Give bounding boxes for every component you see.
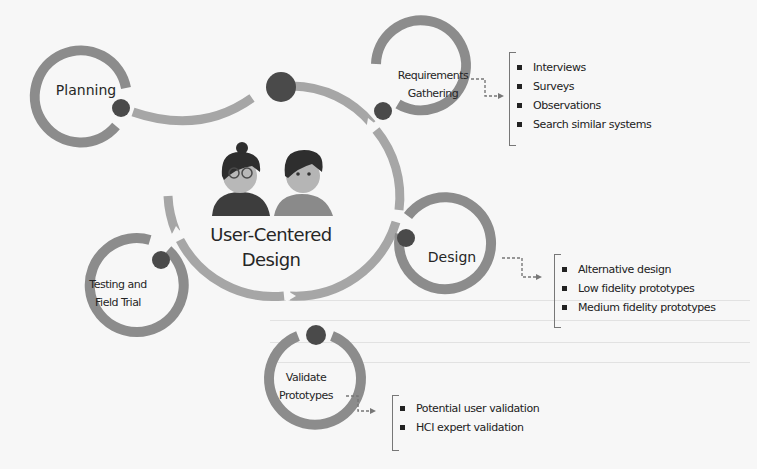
requirements-details-list: Interviews Surveys Observations Search s… bbox=[515, 58, 651, 134]
stage-label-testing-line2: Field Trial bbox=[95, 296, 141, 309]
detail-item: HCI expert validation bbox=[398, 418, 539, 437]
node-requirements bbox=[374, 102, 392, 120]
detail-item: Alternative design bbox=[560, 260, 716, 279]
center-label-line2: Design bbox=[242, 249, 301, 270]
stage-label-testing-line1: Testing and bbox=[88, 278, 146, 291]
stage-label-design: Design bbox=[428, 249, 476, 265]
detail-item: Search similar systems bbox=[515, 115, 651, 134]
stage-label-requirements-line1: Requirements bbox=[398, 69, 469, 82]
stage-label-validate-line2: Prototypes bbox=[279, 389, 334, 402]
design-details-list: Alternative design Low fidelity prototyp… bbox=[560, 260, 716, 317]
node-testing bbox=[152, 251, 170, 269]
ucd-diagram: Planning Requirements Gathering Design V… bbox=[0, 0, 757, 469]
connector-requirements bbox=[471, 79, 498, 96]
validate-details-list: Potential user validation HCI expert val… bbox=[398, 399, 539, 437]
dashed-connectors bbox=[346, 79, 536, 411]
planning-connector-arc bbox=[133, 98, 252, 121]
stage-label-planning: Planning bbox=[56, 82, 116, 98]
center-label-line1: User-Centered bbox=[210, 224, 331, 245]
detail-item: Interviews bbox=[515, 58, 651, 77]
connector-design bbox=[502, 258, 536, 277]
stage-label-requirements-line2: Gathering bbox=[408, 87, 458, 100]
node-top bbox=[266, 72, 296, 102]
cycle-arc bbox=[168, 196, 176, 232]
cycle-arc bbox=[292, 86, 372, 124]
users-illustration-icon bbox=[212, 142, 333, 216]
cycle-arrow-notches bbox=[170, 118, 378, 302]
cycle-arc bbox=[376, 130, 400, 210]
node-design bbox=[397, 229, 415, 247]
node-planning bbox=[112, 99, 130, 117]
stage-label-validate-line1: Validate bbox=[286, 371, 327, 384]
detail-item: Low fidelity prototypes bbox=[560, 279, 716, 298]
node-validate bbox=[306, 325, 326, 345]
detail-item: Observations bbox=[515, 96, 651, 115]
detail-item: Surveys bbox=[515, 77, 651, 96]
detail-item: Potential user validation bbox=[398, 399, 539, 418]
detail-item: Medium fidelity prototypes bbox=[560, 298, 716, 317]
